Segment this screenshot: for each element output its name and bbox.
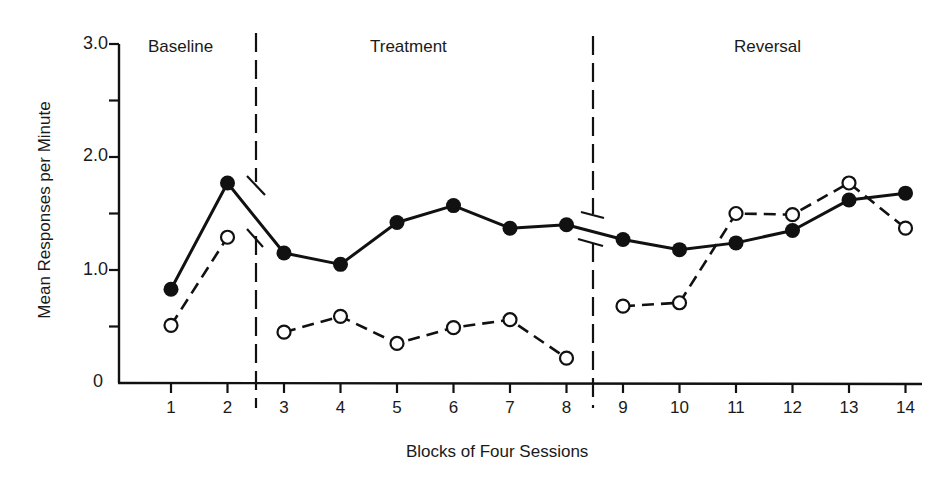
series-line xyxy=(171,237,228,325)
series-line xyxy=(623,183,906,306)
data-point-open xyxy=(730,207,743,220)
data-point-open xyxy=(278,326,291,339)
x-tick-label: 9 xyxy=(603,398,643,418)
series-line xyxy=(284,316,567,358)
data-point-filled xyxy=(559,217,574,232)
x-tick-label: 10 xyxy=(660,398,700,418)
data-point-filled xyxy=(672,242,687,257)
data-point-filled xyxy=(898,186,913,201)
data-point-filled xyxy=(220,175,235,190)
x-axis-title: Blocks of Four Sessions xyxy=(406,442,588,462)
y-axis-title: Mean Responses per Minute xyxy=(35,50,55,370)
axes xyxy=(109,44,922,393)
data-point-open xyxy=(447,321,460,334)
data-point-open xyxy=(673,296,686,309)
data-point-filled xyxy=(390,215,405,230)
x-tick-label: 4 xyxy=(321,398,361,418)
axis-break-mark xyxy=(578,239,603,246)
data-point-filled xyxy=(729,235,744,250)
data-point-filled xyxy=(842,192,857,207)
x-tick-label: 7 xyxy=(490,398,530,418)
x-tick-label: 13 xyxy=(829,398,869,418)
y-tick-label-3: 3.0 xyxy=(48,33,108,54)
data-point-filled xyxy=(446,198,461,213)
x-tick-label: 8 xyxy=(547,398,587,418)
data-point-open xyxy=(899,222,912,235)
x-tick-label: 14 xyxy=(886,398,926,418)
data-point-open xyxy=(334,310,347,323)
data-point-filled xyxy=(333,257,348,272)
x-tick-label: 6 xyxy=(434,398,474,418)
phase-label-treatment: Treatment xyxy=(370,37,447,57)
data-point-filled xyxy=(616,232,631,247)
data-point-open xyxy=(560,352,573,365)
data-point-open xyxy=(221,231,234,244)
series-open-dashed xyxy=(165,176,913,364)
phase-label-reversal: Reversal xyxy=(734,37,801,57)
x-tick-label: 2 xyxy=(208,398,248,418)
y-tick-label-0: 0 xyxy=(43,371,103,392)
phase-change-lines xyxy=(247,33,604,408)
phase-label-baseline: Baseline xyxy=(148,37,213,57)
series-filled-solid xyxy=(164,175,914,296)
y-tick-label-2: 2.0 xyxy=(48,145,108,166)
data-point-open xyxy=(391,337,404,350)
data-point-filled xyxy=(785,223,800,238)
data-point-filled xyxy=(503,221,518,236)
data-point-open xyxy=(504,313,517,326)
data-point-open xyxy=(786,208,799,221)
data-point-open xyxy=(617,300,630,313)
data-point-open xyxy=(843,176,856,189)
data-series xyxy=(164,175,914,364)
data-point-open xyxy=(165,319,178,332)
data-point-filled xyxy=(164,282,179,297)
x-tick-label: 1 xyxy=(151,398,191,418)
y-tick-label-1: 1.0 xyxy=(48,259,108,280)
x-tick-label: 3 xyxy=(264,398,304,418)
x-axis-line xyxy=(118,383,922,384)
x-tick-label: 5 xyxy=(377,398,417,418)
x-tick-label: 11 xyxy=(716,398,756,418)
data-point-filled xyxy=(277,246,292,261)
x-tick-label: 12 xyxy=(773,398,813,418)
